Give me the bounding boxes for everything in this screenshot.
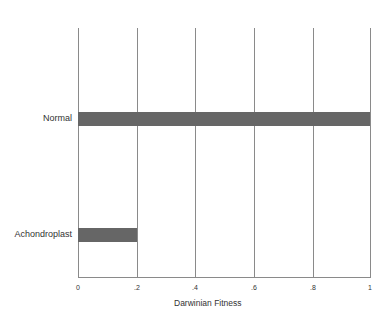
gridline-1 (370, 28, 371, 277)
gridline-0.8 (313, 28, 314, 277)
x-tick-0.8: .8 (303, 284, 323, 291)
x-tick-0.4: .4 (185, 284, 205, 291)
gridline-0.4 (195, 28, 196, 277)
category-label-normal: Normal (2, 113, 72, 123)
x-tick-0.2: .2 (127, 284, 147, 291)
x-axis-label: Darwinian Fitness (174, 298, 242, 308)
x-tick-0: 0 (68, 284, 88, 291)
category-label-achondroplast: Achondroplast (2, 229, 72, 239)
gridline-0.6 (254, 28, 255, 277)
x-tick-0.6: .6 (244, 284, 264, 291)
bar-achondroplast (78, 228, 137, 242)
bar-normal (78, 112, 370, 126)
gridline-0.2 (137, 28, 138, 277)
x-axis-line (78, 277, 371, 278)
x-tick-1: 1 (360, 284, 380, 291)
